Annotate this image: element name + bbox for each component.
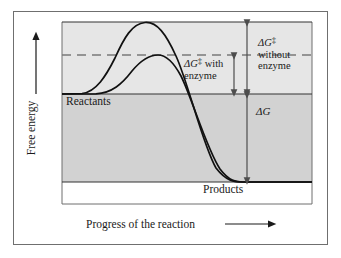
y-axis-label: Free energy [25,76,37,180]
dg-with-enzyme-symbol: ΔG [184,58,198,69]
dg-without-enzyme-text: without enzyme [258,49,291,72]
dg-without-enzyme-dagger-icon: ‡ [272,35,276,45]
delta-g-symbol: ΔG [256,105,270,117]
dg-with-enzyme-label: ΔG‡ with enzyme [184,57,236,81]
dg-without-enzyme-symbol: ΔG [258,37,272,48]
x-axis-label: Progress of the reaction [86,218,195,230]
delta-g-label: ΔG [256,105,270,117]
products-label: Products [203,183,243,196]
reaction-coordinate-figure: Reactants Products ΔG‡ with enzyme ΔG‡ w… [0,0,341,258]
dg-without-enzyme-label: ΔG‡ without enzyme [258,36,310,72]
reactants-label: Reactants [66,95,111,108]
